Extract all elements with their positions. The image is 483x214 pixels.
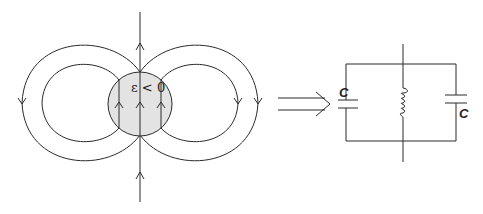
double-arrow-icon <box>278 92 330 116</box>
capacitor-right-label: C <box>459 106 469 121</box>
inner-right-loop <box>161 64 238 141</box>
diagram-canvas: ε < 0 C C <box>0 0 483 214</box>
sphere-label: ε < 0 <box>131 80 165 95</box>
capacitor-left-label: C <box>339 85 349 100</box>
lc-circuit: C C <box>338 44 469 162</box>
inductor-coil <box>400 88 407 117</box>
inner-left-loop <box>42 64 119 141</box>
field-lines-diagram: ε < 0 <box>18 12 262 202</box>
